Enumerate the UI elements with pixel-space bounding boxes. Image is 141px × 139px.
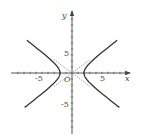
y-axis-arrow — [70, 10, 74, 16]
origin-label: O — [64, 75, 71, 84]
chart: -5 5 5 -5 O x y — [0, 0, 141, 139]
x-tick-label-neg5: -5 — [35, 74, 43, 83]
y-tick-label-5: 5 — [64, 49, 69, 58]
axes — [11, 10, 131, 134]
y-axis-label: y — [61, 11, 67, 20]
y-tick-label-neg5: -5 — [61, 100, 69, 109]
x-axis-label: x — [125, 74, 130, 83]
x-tick-label-5: 5 — [100, 74, 105, 83]
